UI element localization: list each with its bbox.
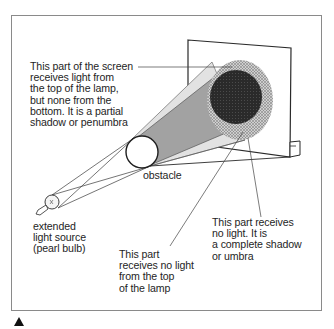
obstacle-label: obstacle [143,170,182,181]
triangle-up-icon [14,317,24,326]
light-bulb-icon [36,195,59,215]
no-light-top-label: This part receives no light from the top… [119,249,194,294]
obstacle [126,136,158,168]
umbra-label: This part receives no light. It is a com… [212,217,302,262]
umbra-region [210,70,262,124]
light-source-label: extended light source (pearl bulb) [33,221,86,255]
penumbra-label: This part of the screen receives light f… [30,61,133,128]
